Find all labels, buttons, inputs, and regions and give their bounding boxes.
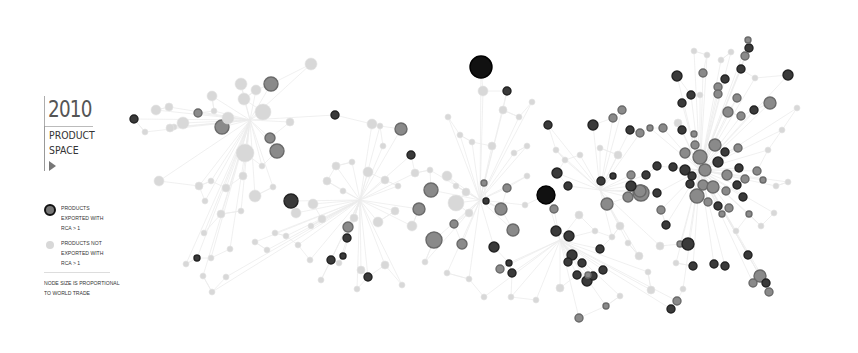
product-node-rca[interactable] (503, 184, 511, 192)
product-node-rca[interactable] (551, 226, 561, 236)
product-node-rca[interactable] (627, 171, 635, 179)
product-node-rca[interactable] (395, 123, 407, 135)
product-node-not-rca[interactable] (201, 230, 207, 236)
product-node-not-rca[interactable] (264, 247, 270, 253)
product-node-not-rca[interactable] (673, 260, 679, 266)
product-node-rca[interactable] (741, 175, 749, 183)
product-node-not-rca[interactable] (524, 173, 530, 179)
product-node-rca[interactable] (714, 90, 722, 98)
product-node-not-rca[interactable] (391, 207, 399, 215)
product-node-not-rca[interactable] (211, 108, 217, 114)
product-node-not-rca[interactable] (422, 259, 428, 265)
product-node-rca[interactable] (265, 133, 275, 143)
product-node-rca[interactable] (687, 91, 695, 99)
product-node-not-rca[interactable] (466, 276, 472, 282)
product-node-not-rca[interactable] (380, 143, 386, 149)
product-node-not-rca[interactable] (647, 286, 655, 294)
product-space-network[interactable] (0, 0, 858, 353)
product-node-not-rca[interactable] (336, 260, 342, 266)
product-node-rca[interactable] (503, 87, 511, 95)
product-node-rca[interactable] (744, 251, 752, 259)
product-node-rca[interactable] (723, 107, 733, 117)
product-node-not-rca[interactable] (308, 199, 318, 209)
product-node-not-rca[interactable] (151, 105, 161, 115)
product-node-rca[interactable] (689, 262, 697, 270)
product-node-rca[interactable] (601, 198, 613, 210)
product-node-rca[interactable] (496, 265, 504, 273)
product-node-not-rca[interactable] (238, 208, 244, 214)
product-node-rca[interactable] (682, 238, 694, 250)
product-node-not-rca[interactable] (779, 127, 785, 133)
product-node-rca[interactable] (653, 189, 661, 197)
product-node-not-rca[interactable] (616, 222, 624, 230)
product-node-not-rca[interactable] (524, 143, 530, 149)
product-node-not-rca[interactable] (645, 269, 651, 275)
product-node-rca[interactable] (707, 181, 719, 193)
product-node-not-rca[interactable] (252, 239, 258, 245)
product-node-not-rca[interactable] (349, 159, 355, 165)
product-node-not-rca[interactable] (407, 221, 417, 231)
product-node-not-rca[interactable] (469, 139, 475, 145)
product-node-not-rca[interactable] (704, 52, 710, 58)
product-node-not-rca[interactable] (465, 209, 473, 217)
product-node-not-rca[interactable] (255, 104, 271, 120)
product-node-not-rca[interactable] (609, 234, 615, 240)
product-node-not-rca[interactable] (367, 119, 377, 129)
product-node-rca[interactable] (745, 37, 751, 43)
product-node-not-rca[interactable] (142, 129, 148, 135)
product-node-rca[interactable] (585, 272, 591, 278)
product-node-rca[interactable] (407, 151, 415, 159)
product-node-not-rca[interactable] (691, 48, 697, 54)
product-node-rca[interactable] (130, 115, 138, 123)
product-node-rca[interactable] (721, 148, 729, 156)
product-node-not-rca[interactable] (183, 261, 189, 267)
product-node-not-rca[interactable] (222, 112, 234, 124)
product-node-not-rca[interactable] (522, 202, 528, 208)
product-node-not-rca[interactable] (752, 75, 758, 81)
product-node-rca[interactable] (507, 224, 519, 236)
product-node-not-rca[interactable] (177, 117, 189, 129)
play-icon[interactable] (49, 161, 56, 171)
product-node-not-rca[interactable] (373, 217, 383, 227)
product-node-rca[interactable] (657, 206, 665, 214)
product-node-not-rca[interactable] (238, 93, 250, 105)
product-node-not-rca[interactable] (794, 105, 800, 111)
product-node-not-rca[interactable] (323, 177, 331, 185)
product-node-not-rca[interactable] (562, 157, 568, 163)
product-node-not-rca[interactable] (427, 167, 433, 173)
product-node-not-rca[interactable] (381, 261, 389, 269)
product-node-not-rca[interactable] (286, 118, 294, 126)
product-node-rca[interactable] (426, 232, 442, 248)
product-node-not-rca[interactable] (251, 85, 261, 95)
product-node-rca[interactable] (450, 220, 458, 228)
product-node-rca[interactable] (709, 139, 721, 151)
product-node-rca[interactable] (762, 279, 770, 287)
product-node-rca[interactable] (457, 239, 467, 249)
product-node-rca[interactable] (710, 260, 718, 268)
product-node-not-rca[interactable] (165, 103, 173, 111)
product-node-not-rca[interactable] (217, 210, 225, 218)
product-node-not-rca[interactable] (680, 286, 686, 292)
product-node-not-rca[interactable] (223, 274, 229, 280)
product-node-not-rca[interactable] (411, 169, 419, 177)
product-node-not-rca[interactable] (236, 144, 254, 162)
product-node-not-rca[interactable] (444, 270, 450, 276)
product-node-not-rca[interactable] (448, 195, 464, 211)
product-node-rca[interactable] (647, 125, 653, 131)
product-node-not-rca[interactable] (318, 215, 326, 223)
product-node-not-rca[interactable] (614, 151, 622, 159)
product-node-not-rca[interactable] (208, 178, 214, 184)
product-node-not-rca[interactable] (773, 183, 779, 189)
product-node-rca[interactable] (693, 150, 707, 164)
product-node-rca[interactable] (737, 112, 745, 120)
product-node-rca[interactable] (734, 144, 742, 152)
product-node-not-rca[interactable] (377, 123, 383, 129)
product-node-not-rca[interactable] (718, 57, 724, 63)
product-node-not-rca[interactable] (307, 257, 313, 263)
product-node-not-rca[interactable] (462, 188, 470, 196)
product-node-rca[interactable] (659, 124, 667, 132)
product-node-not-rca[interactable] (340, 188, 346, 194)
product-node-rca[interactable] (783, 70, 793, 80)
product-node-not-rca[interactable] (350, 214, 358, 222)
product-node-not-rca[interactable] (283, 233, 289, 239)
